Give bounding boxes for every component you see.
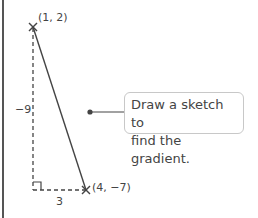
- callout-box: Draw a sketch to find the gradient.: [124, 92, 244, 134]
- callout-line-1: Draw a sketch to: [131, 96, 237, 132]
- point-label-top: (1, 2): [38, 12, 68, 24]
- right-angle-marker: [33, 182, 41, 190]
- line-segment: [33, 27, 86, 190]
- rise-label: −9: [15, 104, 31, 116]
- run-label: 3: [56, 196, 63, 208]
- callout-line-2: find the gradient.: [131, 132, 237, 168]
- point-label-bottom: (4, −7): [92, 182, 131, 194]
